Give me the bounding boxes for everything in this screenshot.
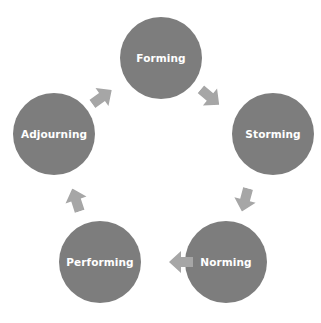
node-label: Storming xyxy=(245,128,300,140)
node-forming: Forming xyxy=(120,17,202,99)
node-storming: Storming xyxy=(232,93,314,175)
node-label: Norming xyxy=(200,256,251,268)
node-adjourning: Adjourning xyxy=(13,93,95,175)
node-label: Adjourning xyxy=(21,128,87,140)
arrow-right-icon xyxy=(61,185,91,215)
arrow-right-icon xyxy=(193,80,227,114)
node-label: Forming xyxy=(136,52,185,64)
arrow-right-icon xyxy=(85,80,119,114)
node-norming: Norming xyxy=(185,221,267,303)
node-label: Performing xyxy=(66,256,134,268)
team-development-cycle-diagram: Forming Storming Norming Performing Adjo… xyxy=(0,0,321,323)
arrow-right-icon xyxy=(169,250,193,274)
node-performing: Performing xyxy=(59,221,141,303)
arrow-right-icon xyxy=(230,185,259,214)
